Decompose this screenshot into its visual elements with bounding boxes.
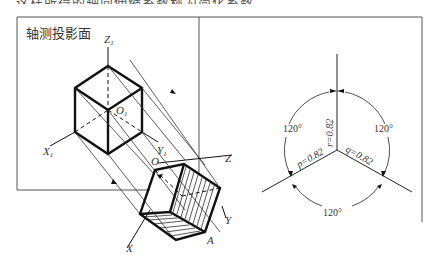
axis-label-x1: X1 bbox=[42, 145, 53, 159]
projection-plane-label: 轴测投影面 bbox=[26, 26, 91, 41]
axis-label-x: X bbox=[125, 242, 134, 254]
object-cube bbox=[127, 155, 232, 248]
angle-label-top-right: 120° bbox=[374, 123, 393, 134]
vertex-label-a: A bbox=[206, 234, 214, 246]
coefficient-q: q=0.82 bbox=[344, 143, 375, 167]
ray-arrow-icon bbox=[111, 179, 117, 184]
axis-label-z1: Z1 bbox=[104, 33, 114, 47]
axis-label-y: Y bbox=[225, 214, 233, 226]
axis-label-z: Z bbox=[225, 152, 232, 164]
ray-arrow-icon bbox=[170, 89, 176, 94]
angle-label-bottom: 120° bbox=[323, 207, 342, 218]
origin-label-o: O bbox=[151, 155, 159, 167]
origin-label-o1: O1 bbox=[116, 104, 127, 118]
axonometric-diagram: 轴测投影面 Z1 O1 X1 Y1 O Z Y A X 120° 120° 12… bbox=[0, 0, 436, 264]
coefficient-p: p=0.82 bbox=[294, 146, 326, 171]
angle-label-top-left: 120° bbox=[283, 123, 302, 134]
coefficient-r: r=0.82 bbox=[324, 119, 335, 147]
projected-cube bbox=[50, 47, 158, 154]
